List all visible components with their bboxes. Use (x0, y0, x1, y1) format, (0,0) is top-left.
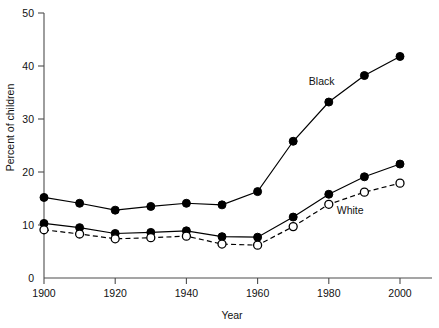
data-series (44, 56, 400, 245)
x-tick-label: 2000 (388, 287, 412, 299)
series-annotation-white: White (337, 204, 364, 216)
x-tick-label: 1940 (175, 287, 199, 299)
x-tick-label: 1980 (317, 287, 341, 299)
data-point-total (254, 233, 262, 241)
data-point-black (147, 202, 155, 210)
y-tick-label: 0 (28, 272, 34, 284)
data-point-total (396, 160, 404, 168)
data-point-white (325, 200, 333, 208)
data-point-white (76, 230, 84, 238)
data-point-black (289, 137, 297, 145)
axis-tick-labels: 01020304050190019201940196019802000 (22, 7, 412, 299)
x-tick-label: 1900 (32, 287, 56, 299)
data-point-white (360, 188, 368, 196)
chart-axes (44, 13, 432, 278)
data-point-white (147, 234, 155, 242)
data-point-black (360, 72, 368, 80)
y-tick-label: 20 (22, 166, 34, 178)
y-tick-label: 10 (22, 219, 34, 231)
data-point-black (325, 98, 333, 106)
data-point-total (360, 173, 368, 181)
series-annotation-black: Black (309, 75, 335, 87)
data-point-black (254, 188, 262, 196)
data-point-white (182, 232, 190, 240)
series-line-black (44, 56, 400, 210)
data-point-white (40, 226, 48, 234)
data-point-white (396, 179, 404, 187)
data-point-black (182, 199, 190, 207)
y-tick-label: 50 (22, 7, 34, 19)
data-point-total (325, 190, 333, 198)
data-point-white (254, 241, 262, 249)
y-axis-title: Percent of children (4, 84, 16, 172)
data-point-black (396, 52, 404, 60)
chart-figure: 01020304050190019201940196019802000 Blac… (0, 0, 439, 328)
y-tick-label: 30 (22, 113, 34, 125)
data-point-black (218, 201, 226, 209)
data-markers (40, 52, 404, 249)
x-tick-label: 1920 (104, 287, 128, 299)
data-point-total (289, 213, 297, 221)
line-chart: 01020304050190019201940196019802000 Blac… (0, 0, 439, 328)
x-axis-title: Year (221, 309, 243, 321)
data-point-black (111, 206, 119, 214)
data-point-white (111, 235, 119, 243)
x-tick-label: 1960 (246, 287, 270, 299)
data-point-black (40, 193, 48, 201)
data-point-black (76, 199, 84, 207)
data-point-white (218, 240, 226, 248)
data-point-white (289, 223, 297, 231)
y-tick-label: 40 (22, 60, 34, 72)
